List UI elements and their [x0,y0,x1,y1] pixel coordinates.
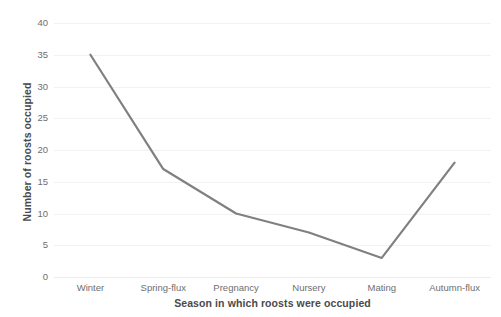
x-axis-tick-label: Autumn-flux [429,281,480,295]
line-series-roosts-occupied [90,55,454,258]
y-axis-tick-label: 15 [22,177,48,187]
y-axis-tick-label: 20 [22,145,48,155]
y-axis-tick-labels: 0510152025303540 [22,0,48,317]
line-chart: Number of roosts occupied 05101520253035… [0,0,501,317]
data-series-layer [54,23,491,277]
y-axis-tick-label: 10 [22,209,48,219]
x-axis-tick-label: Spring-flux [141,281,186,295]
x-axis-tick-label: Mating [367,281,396,295]
y-axis-tick-label: 30 [22,82,48,92]
x-axis-tick-labels: WinterSpring-fluxPregnancyNurseryMatingA… [54,281,491,297]
y-axis-tick-label: 40 [22,18,48,28]
y-axis-tick-label: 0 [22,272,48,282]
x-axis-tick-label: Nursery [292,281,325,295]
y-axis-tick-label: 5 [22,241,48,251]
x-axis-title: Season in which roosts were occupied [54,297,491,309]
x-axis-tick-label: Winter [77,281,104,295]
gridline [54,277,491,278]
y-axis-tick-label: 25 [22,114,48,124]
x-axis-tick-label: Pregnancy [213,281,258,295]
plot-area [54,23,491,277]
y-axis-tick-label: 35 [22,50,48,60]
